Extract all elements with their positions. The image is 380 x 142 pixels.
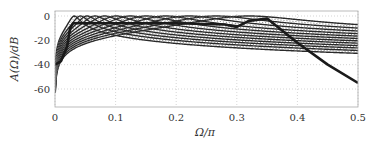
x-tick-label: 0.4: [289, 112, 305, 123]
x-tick-label: 0.5: [350, 112, 366, 123]
filter-response-chart: 00.10.20.30.40.5 0-20-40-60 Ω/π A(Ω)/dB: [0, 0, 380, 142]
x-tick-label: 0.1: [108, 112, 124, 123]
x-tick-label: 0.2: [168, 112, 184, 123]
y-tick-label: -60: [34, 84, 50, 95]
y-tick-label: 0: [44, 11, 50, 22]
y-tick-label: -40: [34, 59, 50, 70]
y-axis-label: A(Ω)/dB: [8, 37, 21, 82]
y-tick-label: -20: [34, 35, 50, 46]
x-axis-label: Ω/π: [194, 126, 216, 139]
x-tick-label: 0.3: [229, 112, 245, 123]
curves: [55, 16, 358, 93]
y-tick-labels: 0-20-40-60: [34, 11, 50, 95]
x-tick-label: 0: [52, 112, 58, 123]
x-tick-labels: 00.10.20.30.40.5: [52, 112, 366, 123]
